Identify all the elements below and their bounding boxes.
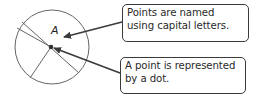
callout-naming: Points are named using capital letters. xyxy=(122,4,249,42)
point-label-a: A xyxy=(51,24,59,37)
callout-text-line: by a dot. xyxy=(125,73,241,86)
callout-text-line: A point is represented xyxy=(125,60,241,73)
arrow-to-label xyxy=(64,22,122,37)
callout-text-line: using capital letters. xyxy=(127,20,244,33)
callout-representation: A point is represented by a dot. xyxy=(120,57,246,94)
callout-text-line: Points are named xyxy=(127,7,244,20)
radius-line-1 xyxy=(17,28,51,47)
arrow-to-dot xyxy=(54,48,120,73)
radius-line-2 xyxy=(30,47,51,78)
point-dot xyxy=(49,45,54,50)
